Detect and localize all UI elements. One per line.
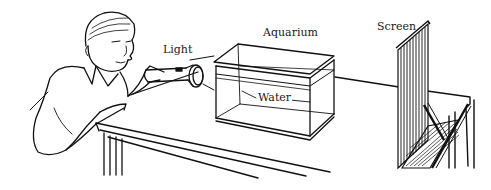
label-water: Water bbox=[257, 92, 292, 104]
experiment-diagram: Light Aquarium Water Screen bbox=[0, 0, 491, 190]
screen bbox=[396, 21, 471, 168]
flashlight bbox=[144, 56, 214, 90]
label-light: Light bbox=[163, 44, 192, 56]
diagram-line-art bbox=[0, 0, 491, 190]
label-screen: Screen bbox=[377, 21, 416, 33]
label-aquarium: Aquarium bbox=[263, 27, 318, 39]
